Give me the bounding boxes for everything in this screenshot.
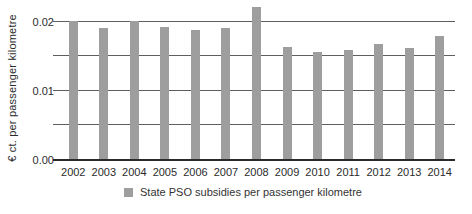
legend-label: State PSO subsidies per passenger kilome… xyxy=(140,186,362,198)
bar-2006 xyxy=(191,30,200,159)
bar-2008 xyxy=(252,7,261,159)
x-tick-label: 2002 xyxy=(56,166,90,178)
x-tick-label: 2014 xyxy=(423,166,457,178)
x-tick-label: 2006 xyxy=(178,166,212,178)
bar-2014 xyxy=(435,36,444,159)
bar-2007 xyxy=(221,28,230,159)
x-tick-label: 2003 xyxy=(87,166,121,178)
bar-chart: € ct. per passenger kilometre 0.020.010.… xyxy=(0,0,472,214)
x-tick-label: 2011 xyxy=(331,166,365,178)
bar-2005 xyxy=(160,27,169,159)
x-tick-label: 2013 xyxy=(392,166,426,178)
bar-2011 xyxy=(344,50,353,159)
legend: State PSO subsidies per passenger kilome… xyxy=(0,186,472,198)
x-tick-label: 2008 xyxy=(240,166,274,178)
x-tick-label: 2009 xyxy=(270,166,304,178)
bar-2012 xyxy=(374,44,383,159)
y-tick-label: 0.01 xyxy=(0,85,54,97)
bar-2004 xyxy=(130,21,139,160)
x-tick-label: 2004 xyxy=(117,166,151,178)
x-tick-label: 2007 xyxy=(209,166,243,178)
x-axis-line xyxy=(53,159,455,161)
bar-2013 xyxy=(405,48,414,159)
bar-2009 xyxy=(283,47,292,159)
y-tick-label: 0.00 xyxy=(0,154,54,166)
y-axis: 0.020.010.00 xyxy=(0,0,54,214)
y-tick-label: 0.02 xyxy=(0,16,54,28)
x-tick-label: 2012 xyxy=(362,166,396,178)
bar-2003 xyxy=(99,28,108,159)
bar-2002 xyxy=(69,21,78,160)
x-tick-label: 2010 xyxy=(301,166,335,178)
bar-2010 xyxy=(313,52,322,159)
x-tick-label: 2005 xyxy=(148,166,182,178)
legend-swatch-icon xyxy=(124,188,133,197)
plot-area xyxy=(58,0,455,159)
